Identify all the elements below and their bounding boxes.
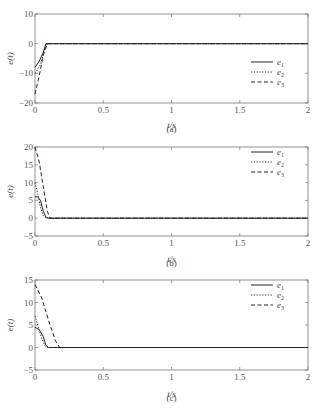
x-tick-label: 2 bbox=[306, 372, 311, 382]
series-e3 bbox=[35, 44, 308, 94]
y-axis-label: e(t) bbox=[5, 319, 15, 332]
x-tick-label: 1 bbox=[169, 238, 174, 248]
series-e2 bbox=[35, 183, 308, 219]
series-e3 bbox=[35, 147, 308, 218]
x-tick-label: 1.5 bbox=[234, 238, 246, 248]
y-tick-label: 0 bbox=[29, 213, 34, 223]
series-e1 bbox=[35, 44, 308, 68]
plot-frame bbox=[35, 14, 308, 103]
series-e1 bbox=[35, 197, 308, 218]
y-tick-label: −10 bbox=[19, 68, 34, 78]
x-tick-label: 1 bbox=[169, 105, 174, 115]
y-tick-label: 10 bbox=[24, 298, 34, 308]
series-e1 bbox=[35, 327, 308, 347]
figure: 00.511.52100−10−20e(t)t/s(a)e1e2e300.511… bbox=[0, 0, 318, 415]
y-axis-label: e(t) bbox=[5, 185, 15, 198]
y-tick-label: 10 bbox=[24, 9, 34, 19]
series-e3 bbox=[35, 285, 308, 348]
y-tick-label: 20 bbox=[24, 142, 34, 152]
y-tick-label: 5 bbox=[29, 195, 34, 205]
x-tick-label: 2 bbox=[306, 238, 311, 248]
x-tick-label: 2 bbox=[306, 105, 311, 115]
x-tick-label: 1.5 bbox=[234, 372, 246, 382]
panel-caption: (a) bbox=[167, 124, 177, 134]
y-tick-label: 5 bbox=[29, 320, 34, 330]
panel-caption: (b) bbox=[166, 258, 177, 268]
x-tick-label: 1.5 bbox=[234, 105, 246, 115]
x-tick-label: 0.5 bbox=[98, 238, 110, 248]
legend-label: e3 bbox=[277, 77, 284, 88]
y-axis-label: e(t) bbox=[5, 52, 15, 65]
y-tick-label: 15 bbox=[24, 160, 34, 170]
x-tick-label: 0 bbox=[33, 105, 38, 115]
y-tick-label: 0 bbox=[29, 343, 34, 353]
chart-panel-b: 00.511.5220151050−5e(t)t/s(b)e1e2e3 bbox=[5, 142, 310, 268]
y-tick-label: −20 bbox=[19, 98, 34, 108]
y-tick-label: 15 bbox=[24, 275, 34, 285]
x-tick-label: 0.5 bbox=[98, 372, 110, 382]
y-tick-label: 0 bbox=[29, 39, 34, 49]
y-tick-label: 10 bbox=[24, 178, 34, 188]
legend: e1e2e3 bbox=[251, 57, 284, 88]
legend: e1e2e3 bbox=[251, 147, 284, 178]
x-tick-label: 1 bbox=[169, 372, 174, 382]
legend: e1e2e3 bbox=[251, 280, 284, 311]
chart-panel-a: 00.511.52100−10−20e(t)t/s(a)e1e2e3 bbox=[5, 9, 310, 134]
series-e2 bbox=[35, 44, 308, 74]
panel-caption: (c) bbox=[167, 393, 177, 403]
y-tick-label: −5 bbox=[23, 365, 33, 375]
series-e2 bbox=[35, 316, 308, 348]
plot-frame bbox=[35, 147, 308, 236]
x-tick-label: 0 bbox=[33, 372, 38, 382]
legend-label: e3 bbox=[277, 300, 284, 311]
x-tick-label: 0.5 bbox=[98, 105, 110, 115]
chart-panel-c: 00.511.52151050−5e(t)t/s(c)e1e2e3 bbox=[5, 275, 310, 403]
y-tick-label: −5 bbox=[23, 231, 33, 241]
legend-label: e3 bbox=[277, 167, 284, 178]
plot-frame bbox=[35, 280, 308, 370]
x-tick-label: 0 bbox=[33, 238, 38, 248]
